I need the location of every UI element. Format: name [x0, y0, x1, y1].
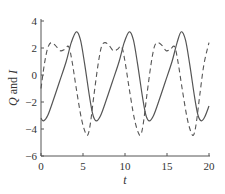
x-axis-label: t: [123, 173, 127, 187]
x-tick-label: 0: [38, 160, 44, 172]
y-axis-label-q: Q: [6, 97, 20, 106]
x-tick-label: 10: [120, 160, 132, 172]
x-tick-label: 20: [204, 160, 216, 172]
x-tick-label: 15: [162, 160, 174, 172]
y-tick-label: −2: [25, 96, 37, 108]
y-tick-label: −6: [25, 150, 37, 162]
y-axis-label-i: I: [6, 69, 20, 75]
plot-area: −6−4−2024 05101520: [25, 15, 215, 172]
line-chart: −6−4−2024 05101520 t Q and I: [0, 0, 225, 194]
q-solid-curve: [41, 32, 209, 121]
y-tick-label: 0: [32, 69, 38, 81]
y-axis-label: Q and I: [6, 69, 20, 106]
i-dashed-curve: [41, 43, 209, 136]
x-tick-label: 5: [80, 160, 86, 172]
y-axis-label-and: and: [6, 74, 20, 97]
y-tick-label: −4: [25, 123, 37, 135]
y-tick-label: 2: [32, 42, 38, 54]
y-tick-label: 4: [32, 15, 38, 27]
